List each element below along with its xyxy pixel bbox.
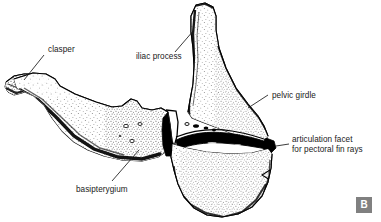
leader-line-pelvic-girdle [248, 95, 268, 108]
basipterygium-structure [10, 70, 182, 166]
pelvic-girdle-illustration [0, 0, 381, 222]
iliac-process-structure [185, 0, 275, 145]
panel-badge-letter: B [360, 200, 367, 210]
label-clasper: clasper [48, 45, 75, 55]
pelvic-girdle-structure [168, 142, 278, 222]
label-articulation-facet-line2: for pectoral fin rays [292, 145, 363, 155]
label-basipterygium: basipterygium [76, 185, 128, 195]
label-pelvic-girdle: pelvic girdle [272, 91, 316, 101]
leader-line-articulation-facet [276, 144, 289, 146]
label-articulation-facet: articulation facet [292, 135, 353, 145]
label-iliac-process: iliac process [136, 52, 182, 62]
leader-line-iliac-process [175, 30, 194, 52]
anatomical-figure: clasper iliac process pelvic girdle arti… [0, 0, 381, 222]
panel-badge: B [356, 197, 372, 213]
